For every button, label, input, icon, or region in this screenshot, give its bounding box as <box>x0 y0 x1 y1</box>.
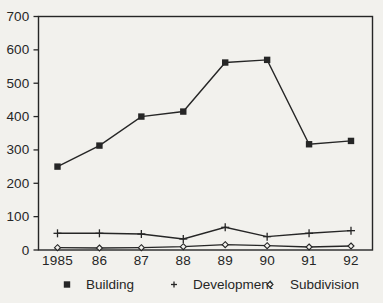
legend-label-building: Building <box>86 277 134 292</box>
legend-label-development: Development <box>193 277 273 292</box>
x-axis-tick-label: 89 <box>218 253 233 268</box>
x-axis-tick-label: 86 <box>92 253 107 268</box>
data-point-square <box>180 108 186 114</box>
data-point-diamond <box>180 244 186 250</box>
data-point-diamond <box>306 244 312 250</box>
legend-label-subdivision: Subdivision <box>290 277 359 292</box>
x-axis-tick-label: 88 <box>176 253 191 268</box>
plot-border <box>39 17 373 251</box>
y-axis-tick-label: 500 <box>6 76 29 91</box>
x-axis-tick-label: 92 <box>343 253 358 268</box>
data-point-diamond <box>348 243 354 249</box>
y-axis-tick-label: 200 <box>6 176 29 191</box>
data-point-square <box>264 57 270 63</box>
data-point-diamond <box>264 243 270 249</box>
x-axis-tick-label: 1985 <box>42 253 73 268</box>
y-axis-tick-label: 700 <box>6 9 29 24</box>
data-point-square <box>306 141 312 147</box>
x-axis-tick-label: 91 <box>301 253 316 268</box>
chart-svg: 0100200300400500600700198586878889909192… <box>0 0 383 303</box>
data-point-square <box>96 142 102 148</box>
y-axis-tick-label: 100 <box>6 209 29 224</box>
y-axis-tick-label: 600 <box>6 42 29 57</box>
data-point-square <box>222 59 228 65</box>
y-axis-tick-label: 300 <box>6 142 29 157</box>
y-axis-tick-label: 400 <box>6 109 29 124</box>
data-point-square <box>64 281 70 287</box>
data-point-square <box>54 163 60 169</box>
y-axis-tick-label: 0 <box>22 243 30 258</box>
data-point-diamond <box>222 242 228 248</box>
x-axis-tick-label: 90 <box>259 253 274 268</box>
data-point-square <box>138 113 144 119</box>
line-chart: 0100200300400500600700198586878889909192… <box>0 0 383 303</box>
x-axis-tick-label: 87 <box>134 253 149 268</box>
series-line-building <box>58 60 352 167</box>
data-point-square <box>348 138 354 144</box>
